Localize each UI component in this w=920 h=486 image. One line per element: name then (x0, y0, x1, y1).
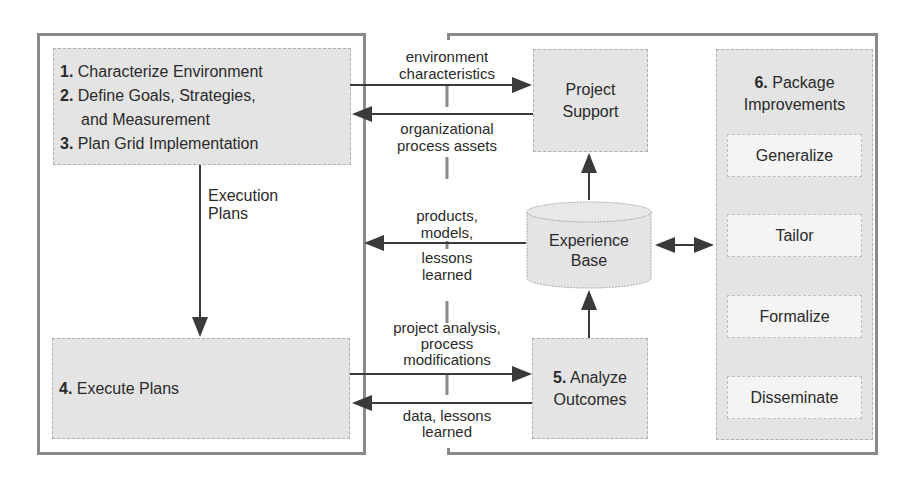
lessons-learned-label: lessonslearned (397, 249, 497, 283)
experience-base-label: Experience Base (527, 231, 651, 271)
products-models-label: products,models, (397, 207, 497, 241)
project-analysis-label: project analysis,processmodifications (365, 320, 529, 368)
env-characteristics-label: environmentcharacteristics (380, 48, 514, 82)
data-lessons-label: data, lessonslearned (380, 408, 514, 440)
org-process-assets-label: organizationalprocess assets (380, 120, 514, 154)
